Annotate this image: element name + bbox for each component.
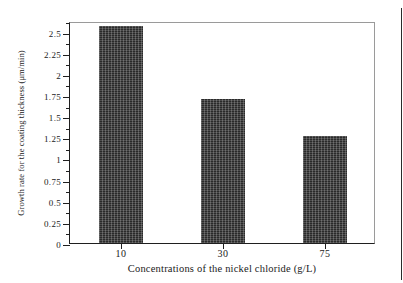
bar-10 xyxy=(99,26,143,243)
y-tick-major xyxy=(63,245,70,246)
x-tick-label: 30 xyxy=(218,249,229,259)
y-tick-minor xyxy=(66,44,70,45)
plot-inner: 00.250.50.7511.251.51.7522.252.5 103075 xyxy=(70,23,374,243)
y-tick-major xyxy=(63,118,70,119)
bar-30 xyxy=(201,99,245,243)
x-tick-label: 75 xyxy=(320,249,331,259)
y-tick-label: 2.25 xyxy=(44,50,61,59)
y-tick-label: 0.25 xyxy=(44,219,61,228)
y-tick-minor xyxy=(66,129,70,130)
y-tick-major xyxy=(63,224,70,225)
y-tick-minor xyxy=(66,234,70,235)
y-tick-major xyxy=(63,182,70,183)
y-tick-minor xyxy=(66,213,70,214)
y-tick-minor xyxy=(66,192,70,193)
y-tick-major xyxy=(63,97,70,98)
y-tick-major xyxy=(63,203,70,204)
y-tick-label: 0 xyxy=(56,241,61,250)
y-tick-minor xyxy=(66,108,70,109)
y-tick-minor xyxy=(66,65,70,66)
y-tick-label: 0.5 xyxy=(49,198,61,207)
figure-container: Growth rate for the coating thickness (μ… xyxy=(0,0,403,283)
x-tick-label: 10 xyxy=(116,249,127,259)
y-tick-minor xyxy=(66,171,70,172)
y-tick-minor xyxy=(66,23,70,24)
plot-area: 00.250.50.7511.251.51.7522.252.5 103075 xyxy=(69,22,375,244)
y-tick-major xyxy=(63,139,70,140)
y-axis-title: Growth rate for the coating thickness (μ… xyxy=(14,22,28,244)
y-tick-label: 0.75 xyxy=(44,177,61,186)
y-tick-label: 1.25 xyxy=(44,135,61,144)
y-tick-major xyxy=(63,34,70,35)
y-tick-major xyxy=(63,76,70,77)
y-tick-label: 1 xyxy=(56,156,61,165)
y-tick-label: 1.5 xyxy=(49,114,61,123)
y-tick-major xyxy=(63,55,70,56)
y-tick-label: 2.5 xyxy=(49,29,61,38)
y-tick-label: 2 xyxy=(56,71,61,80)
y-tick-minor xyxy=(66,86,70,87)
y-tick-minor xyxy=(66,150,70,151)
x-axis-title: Concentrations of the nickel chloride (g… xyxy=(69,263,375,275)
bar-75 xyxy=(303,136,347,243)
y-tick-label: 1.75 xyxy=(44,93,61,102)
y-tick-major xyxy=(63,160,70,161)
